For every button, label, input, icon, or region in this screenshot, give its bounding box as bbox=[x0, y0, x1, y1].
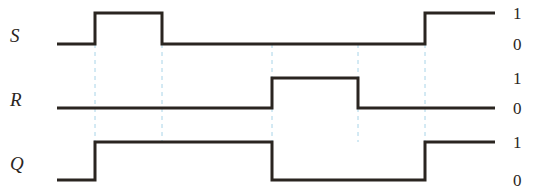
timing-waveform-canvas bbox=[0, 0, 541, 192]
level-label-r-low: 0 bbox=[513, 100, 522, 117]
waveform-group bbox=[57, 13, 495, 180]
waveform-r bbox=[57, 78, 495, 108]
level-label-r-high: 1 bbox=[513, 70, 522, 87]
level-label-q-high: 1 bbox=[513, 134, 522, 151]
waveform-q bbox=[57, 142, 495, 180]
waveform-s bbox=[57, 13, 495, 44]
signal-label-q: Q bbox=[10, 154, 24, 173]
signal-label-s: S bbox=[10, 26, 20, 45]
level-label-s-low: 0 bbox=[513, 36, 522, 53]
level-label-q-low: 0 bbox=[513, 172, 522, 189]
level-label-s-high: 1 bbox=[513, 5, 522, 22]
guide-line-group bbox=[95, 44, 425, 142]
signal-label-r: R bbox=[10, 90, 22, 109]
timing-diagram: S R Q 1 0 1 0 1 0 bbox=[0, 0, 541, 192]
